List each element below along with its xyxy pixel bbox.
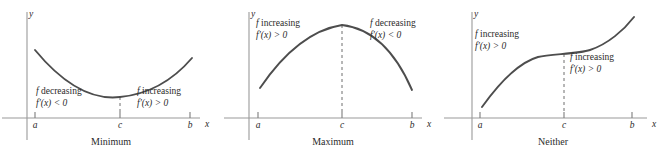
tick-label-b: b xyxy=(625,120,639,130)
annotation-left-neither: f increasing f′(x) > 0 xyxy=(475,29,519,52)
tick-label-c: c xyxy=(335,120,349,130)
annotation-right-neither: f increasing f′(x) > 0 xyxy=(570,52,614,75)
annotation-left-behavior: increasing xyxy=(261,18,300,28)
panel-caption-neither: Neither xyxy=(442,136,664,147)
annotation-left-maximum: f increasing f′(x) > 0 xyxy=(256,18,300,41)
panel-maximum: f increasing f′(x) > 0 f decreasing f′(x… xyxy=(222,0,444,159)
annotation-right-minimum: f increasing f′(x) > 0 xyxy=(137,86,181,109)
annotation-right-function-symbol: f xyxy=(570,52,573,62)
annotation-right-function-symbol: f xyxy=(137,86,140,96)
annotation-left-derivative: f′(x) > 0 xyxy=(256,30,300,42)
annotation-right-behavior: increasing xyxy=(575,52,614,62)
annotation-left-function-symbol: f xyxy=(475,29,478,39)
annotation-left-derivative: f′(x) > 0 xyxy=(475,41,519,53)
annotation-right-function-symbol: f xyxy=(370,18,373,28)
annotation-right-maximum: f decreasing f′(x) < 0 xyxy=(370,18,416,41)
annotation-right-behavior: decreasing xyxy=(375,18,416,28)
annotation-left-behavior: increasing xyxy=(480,29,519,39)
y-axis-label: y xyxy=(251,9,255,19)
y-axis-label: y xyxy=(474,9,478,19)
x-axis-label: x xyxy=(427,119,431,129)
annotation-left-derivative: f′(x) < 0 xyxy=(36,98,82,110)
annotation-left-function-symbol: f xyxy=(256,18,259,28)
x-axis-label: x xyxy=(205,119,209,129)
tick-label-c: c xyxy=(557,120,571,130)
panel-caption-minimum: Minimum xyxy=(0,136,222,147)
annotation-left-behavior: decreasing xyxy=(41,86,82,96)
x-axis-label: x xyxy=(652,119,656,129)
tick-label-a: a xyxy=(251,120,265,130)
first-derivative-test-figure: f decreasing f′(x) < 0 f increasing f′(x… xyxy=(0,0,664,159)
tick-label-b: b xyxy=(183,120,197,130)
annotation-right-derivative: f′(x) < 0 xyxy=(370,30,416,42)
panel-minimum: f decreasing f′(x) < 0 f increasing f′(x… xyxy=(0,0,222,159)
annotation-right-behavior: increasing xyxy=(142,86,181,96)
tick-label-a: a xyxy=(28,120,42,130)
tick-label-c: c xyxy=(113,120,127,130)
annotation-left-function-symbol: f xyxy=(36,86,39,96)
annotation-right-derivative: f′(x) > 0 xyxy=(137,98,181,110)
y-axis-label: y xyxy=(29,9,33,19)
tick-label-a: a xyxy=(473,120,487,130)
tick-label-b: b xyxy=(405,120,419,130)
panel-neither: f increasing f′(x) > 0 f increasing f′(x… xyxy=(442,0,664,159)
annotation-left-minimum: f decreasing f′(x) < 0 xyxy=(36,86,82,109)
panel-caption-maximum: Maximum xyxy=(222,136,444,147)
annotation-right-derivative: f′(x) > 0 xyxy=(570,64,614,76)
